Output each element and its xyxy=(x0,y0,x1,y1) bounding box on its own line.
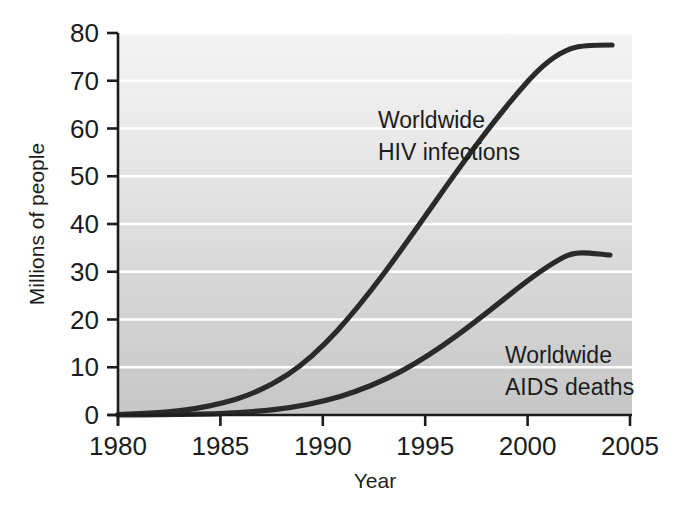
y-tick-label-20: 20 xyxy=(70,305,99,335)
x-tick-label-1985: 1985 xyxy=(191,431,249,461)
annotation-aids-line2: AIDS deaths xyxy=(505,374,634,400)
x-axis-title: Year xyxy=(354,469,396,492)
annotation-aids-line1: Worldwide xyxy=(505,342,612,368)
y-tick-label-40: 40 xyxy=(70,209,99,239)
y-tick-label-50: 50 xyxy=(70,161,99,191)
x-tick-label-1995: 1995 xyxy=(396,431,454,461)
y-tick-label-60: 60 xyxy=(70,114,99,144)
y-tick-label-30: 30 xyxy=(70,257,99,287)
annotation-hiv-line2: HIV infections xyxy=(378,139,520,165)
y-tick-label-10: 10 xyxy=(70,352,99,382)
y-tick-label-80: 80 xyxy=(70,18,99,48)
y-axis-tick-labels: 0 10 20 30 40 50 60 70 80 xyxy=(70,18,99,430)
x-tick-label-1980: 1980 xyxy=(89,431,147,461)
y-tick-label-70: 70 xyxy=(70,66,99,96)
y-tick-label-0: 0 xyxy=(85,400,99,430)
plot-area: Worldwide HIV infections Worldwide AIDS … xyxy=(118,33,634,415)
x-tick-label-2005: 2005 xyxy=(601,431,659,461)
y-axis-title: Millions of people xyxy=(25,143,48,305)
x-tick-label-2000: 2000 xyxy=(499,431,557,461)
x-tick-label-1990: 1990 xyxy=(294,431,352,461)
annotation-hiv-line1: Worldwide xyxy=(378,107,485,133)
chart-figure: Worldwide HIV infections Worldwide AIDS … xyxy=(0,0,683,505)
